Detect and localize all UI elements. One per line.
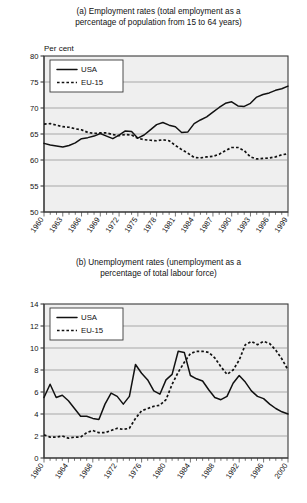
x-tick-label: 1999 bbox=[273, 215, 290, 234]
x-tick-label: 1978 bbox=[141, 215, 158, 234]
x-tick-label: 1981 bbox=[160, 215, 177, 234]
x-tick-label: 1993 bbox=[235, 215, 252, 234]
x-tick-label: 1972 bbox=[104, 215, 121, 234]
chart-employment-rates: (a) Employment rates (total employment a… bbox=[0, 0, 307, 251]
x-tick-label: 1996 bbox=[248, 461, 265, 480]
x-tick-label: 1976 bbox=[126, 461, 143, 480]
chart-unemployment-rates: (b) Unemployment rates (unemployment as … bbox=[0, 251, 307, 503]
y-tick-label: 12 bbox=[30, 322, 38, 331]
y-tick-label: 6 bbox=[34, 388, 38, 397]
y-tick-label: 75 bbox=[30, 78, 38, 87]
chart-b-plot: 0246810121419601964196819721976198019841… bbox=[0, 251, 307, 503]
x-tick-label: 1975 bbox=[122, 215, 139, 234]
y-tick-label: 60 bbox=[30, 156, 38, 165]
chart-a-plot: 5055606570758019601963196619691972197519… bbox=[0, 0, 307, 251]
x-tick-label: 1964 bbox=[53, 461, 70, 480]
x-tick-label: 1960 bbox=[29, 215, 46, 234]
y-tick-label: 70 bbox=[30, 104, 38, 113]
x-tick-label: 1990 bbox=[216, 215, 233, 234]
x-tick-label: 1963 bbox=[47, 215, 64, 234]
y-tick-label: 55 bbox=[30, 182, 38, 191]
y-tick-label: 8 bbox=[34, 366, 38, 375]
x-tick-label: 1969 bbox=[85, 215, 102, 234]
legend-label-eu-15: EU-15 bbox=[81, 78, 104, 87]
x-tick-label: 1972 bbox=[102, 461, 119, 480]
x-tick-label: 1984 bbox=[175, 461, 192, 480]
x-tick-label: 1960 bbox=[29, 461, 46, 480]
x-tick-label: 1987 bbox=[197, 215, 214, 234]
y-tick-label: 80 bbox=[30, 52, 38, 61]
x-tick-label: 1984 bbox=[179, 215, 196, 234]
x-tick-label: 1992 bbox=[224, 461, 241, 480]
y-tick-label: 4 bbox=[34, 410, 38, 419]
x-tick-label: 2000 bbox=[273, 461, 290, 480]
x-tick-label: 1988 bbox=[199, 461, 216, 480]
legend-label-usa: USA bbox=[81, 65, 98, 74]
x-tick-label: 1980 bbox=[151, 461, 168, 480]
y-tick-label: 2 bbox=[34, 432, 38, 441]
x-tick-label: 1968 bbox=[77, 461, 94, 480]
x-tick-label: 1996 bbox=[254, 215, 271, 234]
y-tick-label: 14 bbox=[30, 300, 38, 309]
legend-label-eu-15: EU-15 bbox=[81, 326, 104, 335]
y-tick-label: 65 bbox=[30, 130, 38, 139]
y-tick-label: 10 bbox=[30, 344, 38, 353]
x-tick-label: 1966 bbox=[66, 215, 83, 234]
legend-label-usa: USA bbox=[81, 313, 98, 322]
